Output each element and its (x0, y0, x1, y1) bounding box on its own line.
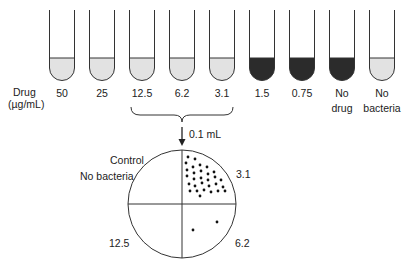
colony-dot (185, 162, 188, 165)
tube-label-line2: bacteria (352, 102, 412, 114)
curly-brace (131, 107, 233, 122)
colony-dot (224, 190, 227, 193)
quadrant-label-3-1: 3.1 (236, 168, 251, 180)
test-tube (330, 10, 355, 81)
test-tube-rack (50, 10, 395, 81)
test-tube (290, 10, 315, 81)
colony-dot (220, 179, 223, 182)
colony-dot (186, 175, 189, 178)
colony-dot (189, 190, 192, 193)
agar-plate (128, 150, 236, 258)
colony-dot (203, 189, 206, 192)
colony-dot (207, 179, 210, 182)
colony-dot (206, 166, 209, 169)
test-tube (250, 10, 275, 81)
colony-dot (201, 182, 204, 185)
colony-dot (216, 221, 219, 224)
colony-dot (192, 166, 195, 169)
colony-dot (193, 178, 196, 181)
test-tube (50, 10, 75, 81)
colony-dot (187, 156, 190, 159)
transfer-volume-label: 0.1 mL (189, 128, 221, 140)
colony-dot (193, 172, 196, 175)
colony-dot (188, 183, 191, 186)
colony-dot (214, 176, 217, 179)
colony-dot (200, 170, 203, 173)
colony-dot (210, 191, 213, 194)
test-tube (90, 10, 115, 81)
colony-dot (217, 190, 220, 193)
colony-dot (222, 186, 225, 189)
quadrant-label-control-line1: Control (104, 154, 144, 166)
colony-dot (199, 195, 202, 198)
colony-dot (207, 173, 210, 176)
test-tube (210, 10, 235, 81)
colony-dot (200, 177, 203, 180)
test-tube (170, 10, 195, 81)
colony-dot (199, 164, 202, 167)
colony-dot (186, 169, 189, 172)
transfer-arrow-icon (179, 127, 186, 146)
test-tube (370, 10, 395, 81)
quadrant-label-12-5: 12.5 (109, 237, 129, 249)
colony-dot (192, 229, 195, 232)
tube-label: Nobacteria (352, 87, 412, 114)
colony-dot (213, 171, 216, 174)
colony-dot (194, 158, 197, 161)
colony-dot (194, 185, 197, 188)
quadrant-label-control: Control No bacteria (104, 154, 144, 182)
colony-dot (215, 183, 218, 186)
quadrant-label-6-2: 6.2 (235, 237, 250, 249)
colony-dot (196, 190, 199, 193)
quadrant-label-control-line2: No bacteria (80, 170, 144, 182)
test-tube (130, 10, 155, 81)
colony-dot (208, 185, 211, 188)
tube-label-line1: No (352, 87, 412, 99)
